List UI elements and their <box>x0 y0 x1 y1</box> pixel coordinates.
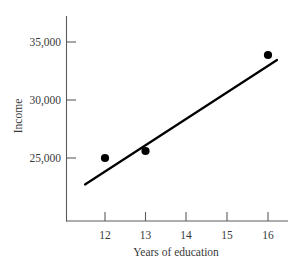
data-point <box>264 51 272 59</box>
data-point <box>101 154 109 162</box>
regression-line <box>85 60 277 185</box>
y-tick-label-35000: 35,000 <box>29 36 61 49</box>
x-tick-label-15: 15 <box>221 229 233 241</box>
x-axis-title: Years of education <box>133 246 219 258</box>
x-tick-label-16: 16 <box>262 229 274 241</box>
y-tick-label-25000: 25,000 <box>29 152 61 165</box>
chart-canvas: 35,000 30,000 25,000 12 13 14 15 16 Year… <box>0 0 303 272</box>
x-tick-label-13: 13 <box>140 229 152 241</box>
data-point <box>141 147 149 155</box>
income-vs-education-chart: 35,000 30,000 25,000 12 13 14 15 16 Year… <box>0 0 303 272</box>
y-axis-title: Income <box>12 99 24 133</box>
x-tick-label-14: 14 <box>180 229 192 241</box>
y-tick-label-30000: 30,000 <box>29 94 61 107</box>
x-tick-label-12: 12 <box>99 229 111 241</box>
